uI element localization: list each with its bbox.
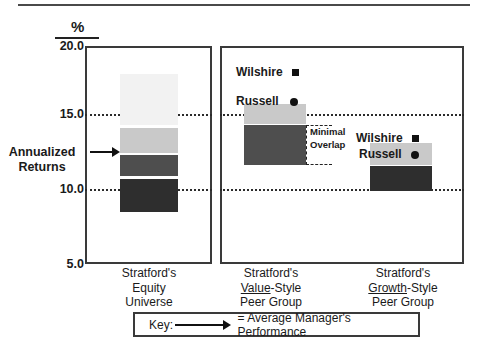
panel-equity-universe	[85, 46, 212, 264]
growth-russell-label: Russell	[359, 147, 402, 161]
top-rule	[18, 4, 470, 6]
quartile-band-3	[120, 155, 178, 176]
category-label-value: Stratford's Value-Style Peer Group	[215, 266, 327, 310]
quartile-band-1	[120, 74, 178, 125]
category-value-word: Value	[241, 281, 271, 295]
category-growth-line3: Peer Group	[344, 295, 462, 310]
y-tick-20: 20.0	[38, 39, 84, 53]
growth-band-lower	[370, 166, 432, 191]
category-growth-line1: Stratford's	[344, 266, 462, 281]
value-band-lower	[244, 125, 306, 165]
category-value-line2: Value-Style	[215, 281, 327, 296]
y-axis-title-line1: Annualized	[0, 145, 84, 160]
box-equity-universe	[120, 48, 178, 266]
y-axis-title-line2: Returns	[0, 160, 84, 175]
growth-wilshire-marker-square-icon	[412, 135, 419, 142]
category-value-suffix: -Style	[271, 281, 302, 295]
quartile-band-4	[120, 179, 178, 212]
category-label-equity: Stratford's Equity Universe	[104, 266, 194, 310]
average-manager-arrow-head	[112, 147, 120, 157]
y-tick-5: 5.0	[38, 257, 84, 271]
legend-equals-text: = Average Manager's Performance	[238, 311, 418, 339]
percent-symbol: %	[60, 18, 96, 35]
panel-peer-groups: Minimal Overlap Wilshire Russell Wilshir…	[220, 46, 464, 264]
legend-key-box: Key: = Average Manager's Performance	[133, 312, 420, 337]
minimal-overlap-label-line2: Overlap	[310, 140, 345, 151]
category-growth-line2: Growth-Style	[344, 281, 462, 296]
value-russell-marker-circle-icon	[290, 98, 298, 106]
category-equity-line2: Equity	[104, 281, 194, 296]
box-value-style	[244, 48, 306, 266]
legend-arrow-icon	[175, 320, 232, 330]
value-russell-label: Russell	[236, 94, 279, 108]
quartile-band-2	[120, 128, 178, 153]
category-value-line1: Stratford's	[215, 266, 327, 281]
legend-key-label: Key:	[149, 318, 173, 332]
y-tick-10: 10.0	[38, 182, 84, 196]
value-wilshire-label: Wilshire	[236, 65, 283, 79]
category-value-line3: Peer Group	[215, 295, 327, 310]
growth-wilshire-label: Wilshire	[356, 131, 403, 145]
minimal-overlap-label-line1: Minimal	[310, 127, 345, 138]
growth-russell-marker-circle-icon	[411, 151, 419, 159]
average-manager-arrow-line	[90, 151, 112, 153]
category-equity-line3: Universe	[104, 295, 194, 310]
category-growth-suffix: -Style	[407, 281, 438, 295]
category-equity-line1: Stratford's	[104, 266, 194, 281]
y-tick-15: 15.0	[38, 107, 84, 121]
value-wilshire-marker-square-icon	[292, 69, 299, 76]
category-growth-word: Growth	[368, 281, 407, 295]
category-label-growth: Stratford's Growth-Style Peer Group	[344, 266, 462, 310]
